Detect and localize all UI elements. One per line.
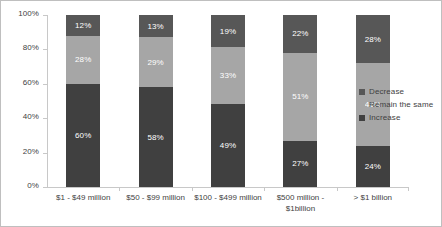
stacked-bar: 13% 29% 58% xyxy=(139,15,173,187)
stacked-bar: 12% 28% 60% xyxy=(66,15,100,187)
x-axis-line xyxy=(47,187,409,188)
y-axis-tick-label: 60% xyxy=(23,78,39,87)
bar-segment-label: 60% xyxy=(75,131,91,140)
legend-swatch-icon xyxy=(359,89,365,95)
x-axis-label-2: $50 - $99 million xyxy=(119,192,191,214)
y-axis-tick-label: 80% xyxy=(23,43,39,52)
bar-segment-increase: 27% xyxy=(283,141,317,187)
bar-segment-remain-the-same: 51% xyxy=(283,53,317,141)
y-axis-tick-label: 20% xyxy=(23,147,39,156)
bar-segment-label: 28% xyxy=(75,55,91,64)
legend-label: Decrease xyxy=(369,87,404,96)
bar-segment-remain-the-same: 29% xyxy=(139,37,173,87)
bar-segment-label: 29% xyxy=(147,58,163,67)
legend-item-decrease[interactable]: Decrease xyxy=(359,85,433,98)
bar-segment-label: 12% xyxy=(75,21,91,30)
bar-segment-remain-the-same: 33% xyxy=(211,47,245,103)
y-axis-tick-label: 100% xyxy=(18,9,39,18)
x-axis-tick-mark xyxy=(337,187,338,191)
bar-group-2: 13% 29% 58% xyxy=(119,15,191,187)
bar-segment-decrease: 22% xyxy=(283,15,317,53)
x-axis-tick-mark xyxy=(119,187,120,191)
legend-label: Remain the same xyxy=(369,100,433,109)
bar-segment-label: 24% xyxy=(365,162,381,171)
y-axis-tick-mark xyxy=(43,187,47,188)
x-axis-tick-mark xyxy=(192,187,193,191)
bar-segment-decrease: 13% xyxy=(139,15,173,37)
y-axis-tick-label: 40% xyxy=(23,112,39,121)
bar-segment-label: 33% xyxy=(220,71,236,80)
bar-segment-increase: 24% xyxy=(356,146,390,187)
chart-legend: Decrease Remain the same Increase xyxy=(359,85,433,124)
bar-segment-remain-the-same: 28% xyxy=(66,36,100,84)
bar-group-1: 12% 28% 60% xyxy=(47,15,119,187)
bar-segment-label: 19% xyxy=(220,27,236,36)
y-axis-tick-label: 0% xyxy=(27,181,39,190)
bar-group-3: 19% 33% 49% xyxy=(192,15,264,187)
bar-segment-increase: 58% xyxy=(139,87,173,187)
x-axis-label-4: $500 million - $1billion xyxy=(264,192,336,214)
bar-segment-increase: 60% xyxy=(66,84,100,187)
x-axis-labels: $1 - $49 million $50 - $99 million $100 … xyxy=(47,192,409,214)
bar-segment-label: 13% xyxy=(147,22,163,31)
bar-segment-decrease: 19% xyxy=(211,15,245,47)
x-axis-label-3: $100 - $499 million xyxy=(192,192,264,214)
x-axis-label-1: $1 - $49 million xyxy=(47,192,119,214)
bar-group-4: 22% 51% 27% xyxy=(264,15,336,187)
legend-swatch-icon xyxy=(359,115,365,121)
bar-segment-decrease: 28% xyxy=(356,15,390,63)
bar-segment-label: 58% xyxy=(147,133,163,142)
legend-item-increase[interactable]: Increase xyxy=(359,111,433,124)
stacked-bar-chart: 100% 80% 60% 40% 20% 0% 12% 28% xyxy=(0,0,442,227)
legend-swatch-icon xyxy=(359,102,365,108)
x-axis-tick-mark xyxy=(264,187,265,191)
legend-label: Increase xyxy=(369,113,400,122)
bar-segment-label: 28% xyxy=(365,35,381,44)
bar-segment-label: 49% xyxy=(220,141,236,150)
bars-container: 12% 28% 60% 13% 29% 58% xyxy=(47,15,409,187)
bar-segment-label: 27% xyxy=(292,159,308,168)
stacked-bar: 22% 51% 27% xyxy=(283,15,317,187)
bar-segment-label: 22% xyxy=(292,29,308,38)
bar-segment-label: 51% xyxy=(292,92,308,101)
stacked-bar: 19% 33% 49% xyxy=(211,15,245,187)
bar-segment-increase: 49% xyxy=(211,104,245,187)
legend-item-remain-the-same[interactable]: Remain the same xyxy=(359,98,433,111)
bar-segment-decrease: 12% xyxy=(66,15,100,36)
x-axis-label-5: > $1 billion xyxy=(337,192,409,214)
x-axis-tick-mark xyxy=(408,187,409,191)
